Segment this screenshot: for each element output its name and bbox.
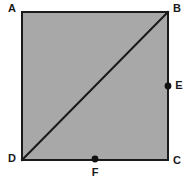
vertex-label-a: A — [8, 2, 16, 14]
geometry-diagram-svg: A B C D E F — [0, 0, 192, 187]
point-label-f: F — [92, 166, 99, 178]
point-e-marker — [165, 83, 172, 90]
vertex-label-d: D — [8, 152, 16, 164]
point-f-marker — [92, 156, 99, 163]
vertex-label-b: B — [173, 2, 181, 14]
geometry-figure-container: A B C D E F — [0, 0, 192, 187]
point-label-e: E — [175, 79, 182, 91]
vertex-label-c: C — [173, 154, 181, 166]
